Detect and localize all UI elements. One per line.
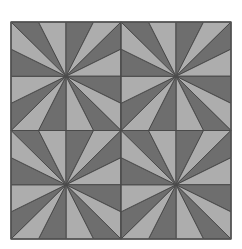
tile-bottom-left [11,131,121,240]
tile-top-left [11,22,121,131]
tiles-group [11,22,231,239]
tile-bottom-right [121,131,231,240]
figure-container [0,0,242,249]
tile-top-right [121,22,231,131]
triangle-tiling-figure [0,0,242,249]
